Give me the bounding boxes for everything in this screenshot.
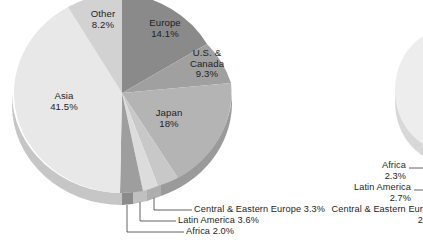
right-pie	[395, 28, 423, 164]
slice-label-asia-name: Asia	[54, 90, 73, 101]
slice-label-us-canada: U.S. & Canada 9.3%	[178, 48, 236, 80]
pie-chart-figure: Europe 14.1% U.S. & Canada 9.3% Japan 18…	[0, 0, 423, 244]
slice-label-asia: Asia 41.5%	[35, 91, 93, 112]
slice-label-japan-value: 18%	[143, 119, 195, 130]
callout-right-central-eastern-europe: Central & Eastern Eur 2	[285, 204, 423, 225]
slice-label-asia-value: 41.5%	[35, 102, 93, 113]
leader-latin-america	[140, 202, 176, 221]
callout-right-latin-america-name: Latin America	[354, 182, 411, 192]
slice-label-japan: Japan 18%	[143, 108, 195, 129]
slice-label-europe: Europe 14.1%	[134, 18, 196, 39]
slice-label-other: Other 8.2%	[76, 9, 130, 30]
slice-label-us-canada-value: 9.3%	[178, 69, 236, 80]
callout-latin-america: Latin America 3.6%	[178, 215, 259, 226]
slice-label-europe-value: 14.1%	[134, 29, 196, 40]
callout-africa: Africa 2.0%	[186, 226, 234, 237]
callout-right-latin-america-value: 2.7%	[290, 193, 411, 204]
slice-label-us-canada-name: U.S. &	[193, 47, 221, 58]
leader-africa	[127, 205, 184, 232]
right-pie-leader-lines	[409, 168, 423, 190]
callout-right-latin-america: Latin America 2.7%	[290, 182, 411, 203]
slice-label-europe-name: Europe	[149, 17, 181, 28]
slice-label-other-value: 8.2%	[76, 20, 130, 31]
callout-right-africa: Africa 2.3%	[300, 160, 406, 181]
callout-right-cee-name: Central & Eastern Eur	[332, 204, 423, 214]
depth-africa	[122, 192, 133, 205]
callout-right-cee-value: 2	[285, 215, 423, 226]
leader-cee	[154, 198, 192, 210]
callout-right-africa-name: Africa	[382, 160, 406, 170]
slice-label-other-name: Other	[91, 8, 116, 19]
slice-label-japan-name: Japan	[156, 107, 183, 118]
callout-right-africa-value: 2.3%	[300, 171, 406, 182]
